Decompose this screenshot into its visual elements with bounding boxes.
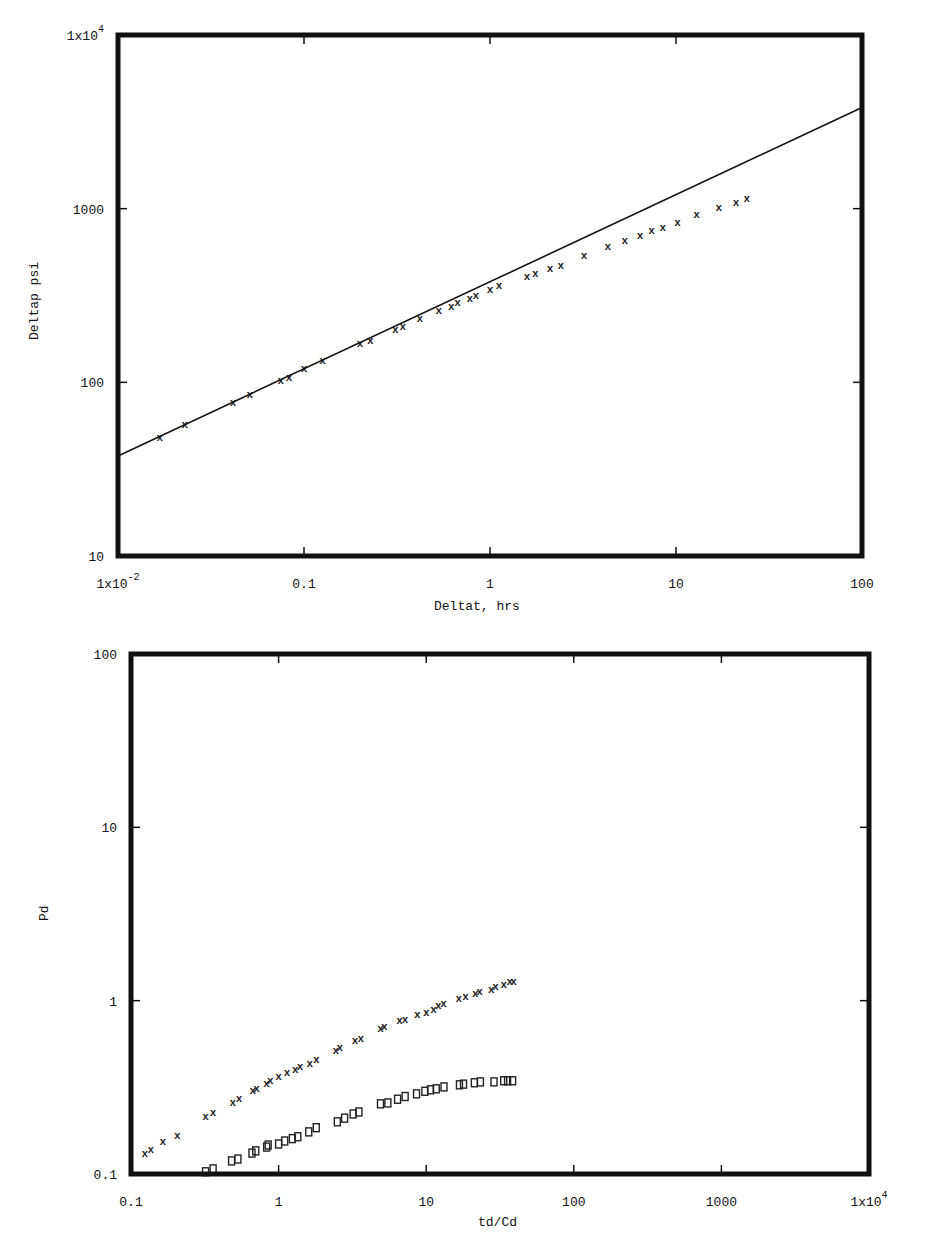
data-point-x-marker: x: [210, 1107, 217, 1119]
data-point-square-marker: [385, 1099, 391, 1107]
data-point-x-marker: x: [492, 981, 499, 993]
fit-line: [118, 108, 862, 456]
y-tick-label: 10: [101, 821, 117, 836]
data-point-square-marker: [491, 1078, 497, 1086]
data-point-square-marker: [477, 1078, 483, 1086]
data-point-x-marker: x: [337, 1042, 344, 1054]
data-point-x-marker: x: [147, 1144, 154, 1156]
data-point-x-marker: x: [313, 1054, 320, 1066]
data-point-square-marker: [313, 1124, 319, 1132]
data-point-square-marker: [306, 1128, 312, 1136]
data-point-x-marker: x: [236, 1093, 243, 1105]
data-point-x-marker: x: [381, 1021, 388, 1033]
bottom-x-axis-title: td/Cd: [478, 1215, 517, 1230]
data-point-x-marker: x: [284, 1067, 291, 1079]
x-tick-label: 1x10-2: [96, 572, 139, 592]
data-point-square-marker: [395, 1095, 401, 1103]
data-point-square-marker: [501, 1077, 507, 1085]
data-point-x-marker: x: [693, 209, 700, 221]
top-x-axis-title: Deltat, hrs: [434, 599, 520, 614]
data-point-x-marker: x: [648, 225, 655, 237]
bottom-axis-ticks: 0.111010010001x1040.1110100: [94, 648, 888, 1210]
y-tick-label: 10: [88, 550, 104, 565]
data-point-x-marker: x: [524, 271, 531, 283]
data-point-x-marker: x: [476, 986, 483, 998]
data-point-x-marker: x: [414, 1009, 421, 1021]
data-point-square-marker: [229, 1157, 235, 1165]
x-tick-label: 1000: [706, 1195, 737, 1210]
bottom-data-series: xxxxxxxxxxxxxxxxxxxxxxxxxxxxxxxxxxxxxxxx: [141, 976, 517, 1175]
data-point-x-marker: x: [674, 217, 681, 229]
data-point-x-marker: x: [532, 268, 539, 280]
data-point-square-marker: [276, 1140, 282, 1148]
top-y-axis-title: Deltap psi: [27, 262, 42, 340]
top-axis-ticks: 1x10-20.11101001010010001x104: [67, 24, 874, 592]
data-point-x-marker: x: [743, 193, 750, 205]
data-point-x-marker: x: [547, 263, 554, 275]
y-tick-label: 1000: [73, 203, 104, 218]
x-tick-label: 10: [668, 577, 684, 592]
data-point-x-marker: x: [455, 993, 462, 1005]
data-point-square-marker: [414, 1090, 420, 1098]
y-tick-label: 1x104: [67, 24, 104, 44]
x-tick-label: 1: [486, 577, 494, 592]
y-tick-label: 0.1: [94, 1168, 118, 1183]
chart-canvas: Deltat, hrs Deltap psi 1x10-20.111010010…: [0, 0, 927, 1249]
data-point-square-marker: [377, 1100, 383, 1108]
data-point-square-marker: [471, 1079, 477, 1087]
y-tick-label: 1: [109, 995, 117, 1010]
data-point-x-marker: x: [487, 284, 494, 296]
data-point-x-marker: x: [660, 222, 667, 234]
top-plot-deltap-vs-deltat: Deltat, hrs Deltap psi 1x10-20.111010010…: [27, 24, 874, 614]
data-point-x-marker: x: [605, 241, 612, 253]
data-point-square-marker: [253, 1147, 259, 1155]
data-point-square-marker: [282, 1137, 288, 1145]
x-tick-label: 100: [562, 1195, 585, 1210]
data-point-square-marker: [441, 1083, 447, 1091]
data-point-x-marker: x: [462, 991, 469, 1003]
y-tick-label: 100: [94, 648, 117, 663]
data-point-square-marker: [402, 1092, 408, 1100]
data-point-x-marker: x: [297, 1061, 304, 1073]
data-point-x-marker: x: [357, 1033, 364, 1045]
data-point-x-marker: x: [253, 1083, 260, 1095]
data-point-x-marker: x: [733, 197, 740, 209]
data-point-x-marker: x: [275, 1071, 282, 1083]
x-tick-label: 10: [418, 1195, 434, 1210]
data-point-x-marker: x: [423, 1007, 430, 1019]
data-point-x-marker: x: [496, 280, 503, 292]
data-point-x-marker: x: [510, 976, 517, 988]
x-tick-label: 1x104: [850, 1190, 887, 1210]
bottom-y-axis-title: Pd: [37, 905, 52, 921]
data-point-x-marker: x: [440, 998, 447, 1010]
data-point-x-marker: x: [159, 1136, 166, 1148]
x-tick-label: 100: [850, 577, 873, 592]
data-point-x-marker: x: [637, 230, 644, 242]
x-tick-label: 1: [275, 1195, 283, 1210]
data-point-x-marker: x: [473, 290, 480, 302]
data-point-square-marker: [235, 1155, 241, 1163]
data-point-x-marker: x: [202, 1111, 209, 1123]
data-point-x-marker: x: [621, 235, 628, 247]
data-point-square-marker: [342, 1114, 348, 1122]
data-point-x-marker: x: [581, 250, 588, 262]
data-point-x-marker: x: [557, 260, 564, 272]
data-point-square-marker: [249, 1149, 255, 1157]
data-point-x-marker: x: [174, 1130, 181, 1142]
bottom-plot-pd-vs-tdcd: td/Cd Pd 0.111010010001x1040.1110100 xxx…: [37, 648, 888, 1230]
data-point-x-marker: x: [267, 1075, 274, 1087]
x-tick-label: 0.1: [119, 1195, 143, 1210]
data-point-square-marker: [334, 1118, 340, 1126]
data-point-x-marker: x: [716, 202, 723, 214]
x-tick-label: 0.1: [292, 577, 316, 592]
y-tick-label: 100: [81, 376, 104, 391]
top-data-series: xxxxxxxxxxxxxxxxxxxxxxxxxxxxxxxxxxx: [118, 108, 862, 456]
data-point-x-marker: x: [402, 1014, 409, 1026]
